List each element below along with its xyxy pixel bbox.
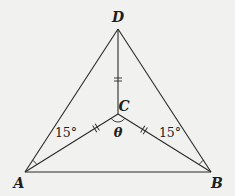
label-A: A <box>12 175 25 191</box>
angle-arc-A <box>33 160 37 164</box>
angle-label-A: 15° <box>55 125 77 140</box>
segment-AD <box>25 29 118 172</box>
segment-BC <box>118 114 211 172</box>
label-B: B <box>210 175 223 191</box>
angle-arc-C <box>111 118 125 122</box>
angle-label-B: 15° <box>159 125 181 140</box>
segment-AC <box>25 114 118 172</box>
segment-BD <box>118 29 211 172</box>
geometry-diagram: D C A B 15° 15° θ <box>0 0 235 196</box>
angle-arc-B <box>199 160 203 164</box>
angle-label-theta: θ <box>114 125 123 140</box>
label-C: C <box>118 98 129 114</box>
label-D: D <box>111 9 125 25</box>
